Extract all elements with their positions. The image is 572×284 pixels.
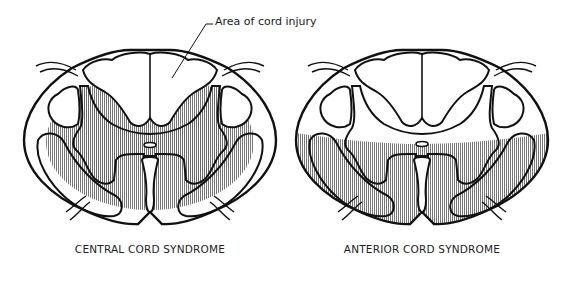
central-canal — [144, 143, 156, 148]
central-canal — [416, 142, 428, 147]
lateral-column-left — [320, 87, 351, 128]
lateral-column-left — [48, 87, 79, 128]
callout-label: Area of cord injury — [215, 15, 317, 28]
lateral-column-right — [221, 87, 252, 128]
anterior-cord-diagram — [290, 50, 556, 240]
lateral-column-right — [493, 87, 524, 128]
caption-central-cord-syndrome: CENTRAL CORD SYNDROME — [20, 243, 280, 255]
central-cord-diagram — [24, 24, 276, 224]
caption-anterior-cord-syndrome: ANTERIOR CORD SYNDROME — [292, 243, 552, 255]
spinal-cord-figure — [0, 0, 572, 284]
